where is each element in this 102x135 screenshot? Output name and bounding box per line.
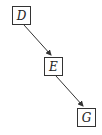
- tree-diagram: D E G: [0, 0, 102, 135]
- node-e: E: [44, 57, 63, 76]
- edge-d-e: [24, 25, 51, 55]
- edge-e-g: [56, 76, 83, 106]
- node-g: G: [77, 108, 96, 127]
- node-d: D: [12, 6, 31, 25]
